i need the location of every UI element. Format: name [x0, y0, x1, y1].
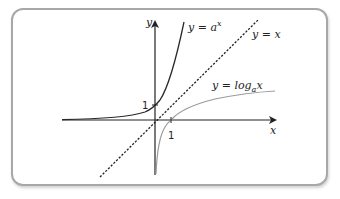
function-graph: y x 1 1 y = ax y = x y = logax: [0, 0, 340, 199]
identity-label: y = x: [251, 28, 281, 41]
logarithm-label-argument: x: [256, 79, 263, 92]
exponential-curve: [62, 22, 184, 120]
x-tick-label: 1: [168, 130, 174, 141]
exponential-label: y = ax: [187, 19, 222, 34]
exponential-label-exponent: x: [217, 19, 222, 28]
y-tick-label: 1: [142, 100, 148, 111]
logarithm-label: y = logax: [211, 79, 263, 94]
x-axis-label: x: [270, 124, 277, 137]
y-axis-label: y: [145, 16, 153, 29]
logarithm-label-base: y = log: [211, 79, 252, 92]
exponential-label-base: y = a: [187, 21, 217, 34]
